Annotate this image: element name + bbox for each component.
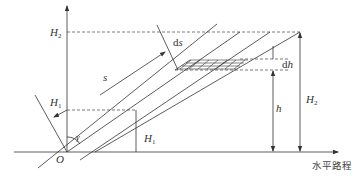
label-ds: ds: [173, 36, 183, 48]
label-h1-arrow: H1: [49, 96, 62, 110]
h1-arrow: [54, 110, 67, 117]
label-h2-right: H2: [305, 93, 318, 107]
label-x-axis: 水平路程: [312, 160, 352, 171]
label-gamma: γ: [76, 132, 80, 142]
label-h1-vertical: H1: [143, 132, 156, 146]
label-s: s: [103, 71, 107, 83]
label-h: h: [276, 102, 282, 114]
label-h2-axis: H2: [49, 26, 62, 40]
slant-ray-lines: [38, 24, 300, 168]
label-origin: O: [56, 153, 64, 165]
label-dh: dh: [282, 58, 294, 70]
slant-path-diagram: H2 H2 H1 H1 s ds dh h γ O 水平路程: [0, 0, 363, 176]
